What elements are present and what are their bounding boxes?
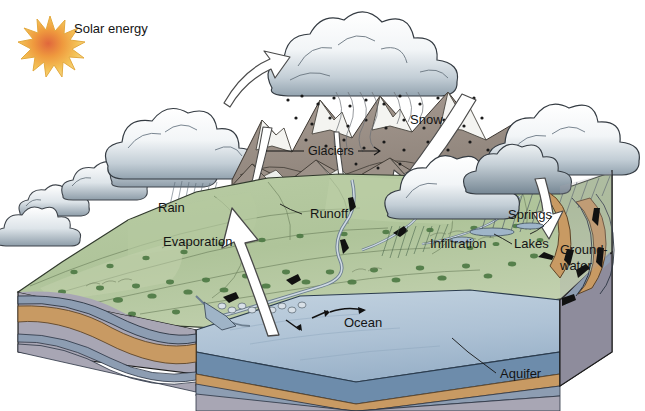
cloud-main-top bbox=[268, 12, 458, 96]
label-evaporation: Evaporation bbox=[163, 234, 232, 249]
label-springs: Springs bbox=[508, 207, 553, 222]
label-runoff: Runoff bbox=[310, 206, 348, 221]
label-aquifer: Aquifer bbox=[500, 366, 542, 381]
label-solar-energy: Solar energy bbox=[74, 21, 148, 36]
label-infiltration: Infiltration bbox=[430, 236, 486, 251]
cloud-rain-left bbox=[105, 109, 256, 180]
label-glaciers: Glaciers bbox=[308, 144, 354, 158]
label-groundwater-line1: Ground- bbox=[560, 242, 608, 257]
label-groundwater-line2: water bbox=[559, 258, 592, 273]
water-cycle-diagram: Solar energy bbox=[0, 0, 645, 411]
label-rain: Rain bbox=[158, 200, 185, 215]
label-ocean: Ocean bbox=[344, 315, 382, 330]
label-lakes: Lakes bbox=[514, 236, 549, 251]
label-snow: Snow bbox=[410, 112, 443, 127]
